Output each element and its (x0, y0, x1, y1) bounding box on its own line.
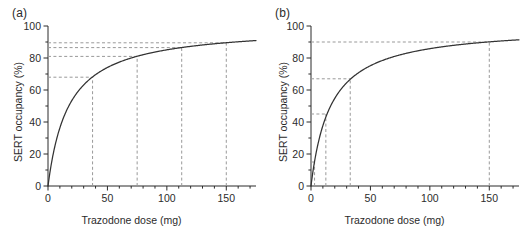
chart-panel-b: (b) SERT occupancy (%) Trazodone dose (m… (263, 0, 526, 228)
plot-area-a: 020406080100050100150 (0, 0, 263, 228)
y-axis-tick-label: 80 (29, 52, 41, 64)
y-axis-tick-label: 40 (29, 116, 41, 128)
x-axis-tick-label: 100 (158, 192, 176, 204)
y-axis-tick-label: 0 (35, 180, 41, 192)
x-axis-tick-label: 50 (102, 192, 114, 204)
y-axis-tick-label: 0 (298, 180, 304, 192)
y-axis-tick-label: 100 (286, 20, 304, 32)
plot-area-b: 020406080100050100150 (263, 0, 526, 228)
y-axis-tick-label: 60 (292, 84, 304, 96)
x-axis-tick-label: 50 (365, 192, 377, 204)
occupancy-curve (48, 41, 256, 186)
x-axis-tick-label: 150 (481, 192, 499, 204)
y-axis-tick-label: 20 (29, 148, 41, 160)
x-axis-tick-label: 0 (45, 192, 51, 204)
figure-container: (a) SERT occupancy (%) Trazodone dose (m… (0, 0, 526, 228)
occupancy-curve (311, 40, 519, 186)
y-axis-tick-label: 60 (29, 84, 41, 96)
y-axis-tick-label: 40 (292, 116, 304, 128)
y-axis-tick-label: 80 (292, 52, 304, 64)
x-axis-tick-label: 100 (421, 192, 439, 204)
x-axis-tick-label: 150 (218, 192, 236, 204)
y-axis-tick-label: 100 (23, 20, 41, 32)
y-axis-tick-label: 20 (292, 148, 304, 160)
chart-panel-a: (a) SERT occupancy (%) Trazodone dose (m… (0, 0, 263, 228)
x-axis-tick-label: 0 (308, 192, 314, 204)
